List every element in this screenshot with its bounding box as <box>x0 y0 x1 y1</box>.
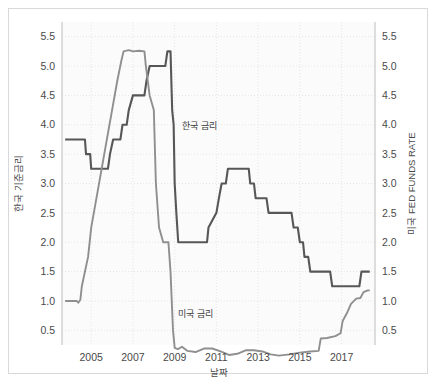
ytick-label-right: 0.5 <box>382 324 397 336</box>
ytick-label-left: 2.0 <box>40 236 55 248</box>
xtick-label: 2013 <box>246 351 270 363</box>
xtick-label: 2005 <box>80 351 104 363</box>
ytick-label-right: 5.0 <box>382 60 397 72</box>
ytick-label-left: 5.0 <box>40 60 55 72</box>
dual-axis-line-chart: 0.51.01.52.02.53.03.54.04.55.05.50.51.01… <box>0 0 437 390</box>
ytick-label-right: 2.5 <box>382 207 397 219</box>
xtick-label: 2007 <box>121 351 145 363</box>
ytick-label-left: 3.0 <box>40 177 55 189</box>
ytick-label-right: 5.5 <box>382 30 397 42</box>
xtick-label: 2009 <box>163 351 187 363</box>
xtick-label: 2015 <box>288 351 312 363</box>
ytick-label-left: 2.5 <box>40 207 55 219</box>
ytick-label-right: 4.0 <box>382 118 397 130</box>
xtick-label: 2017 <box>330 351 354 363</box>
ytick-label-left: 1.5 <box>40 265 55 277</box>
ytick-label-right: 1.0 <box>382 295 397 307</box>
ytick-label-left: 0.5 <box>40 324 55 336</box>
korea-series-label: 한국 금리 <box>182 121 217 131</box>
ytick-label-right: 3.5 <box>382 148 397 160</box>
xtick-label: 2011 <box>205 351 228 363</box>
ytick-label-left: 4.0 <box>40 118 55 130</box>
ytick-label-left: 3.5 <box>40 148 55 160</box>
ytick-label-right: 2.0 <box>382 236 397 248</box>
us-series-label: 미국 금리 <box>178 309 213 319</box>
ytick-label-left: 5.5 <box>40 30 55 42</box>
ytick-label-left: 1.0 <box>40 295 55 307</box>
ytick-label-right: 1.5 <box>382 265 397 277</box>
x-axis-title: 날짜 <box>210 367 228 378</box>
ytick-label-right: 3.0 <box>382 177 397 189</box>
y-axis-title-left: 한국 기준금리 <box>13 155 24 212</box>
ytick-label-left: 4.5 <box>40 89 55 101</box>
ytick-label-right: 4.5 <box>382 89 397 101</box>
chart-figure: 0.51.01.52.02.53.03.54.04.55.05.50.51.01… <box>0 0 437 390</box>
y-axis-title-right: 미국 FED FUNDS RATE <box>406 132 417 234</box>
